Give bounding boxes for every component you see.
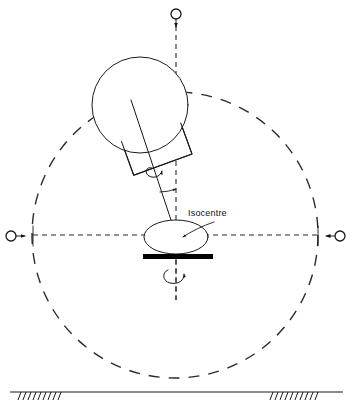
gantry-rotation-marker-circle [171, 9, 181, 19]
beam-angle-marker [160, 189, 176, 192]
floor [10, 392, 343, 400]
diagram-canvas: Isocentre [0, 0, 353, 412]
patient-and-couch [143, 220, 213, 300]
treatment-couch-bar [143, 254, 213, 259]
right-axis-marker-circle [335, 231, 345, 241]
floor-hatch-right [270, 392, 318, 400]
left-axis-marker-circle [6, 231, 16, 241]
floor-hatch-left [18, 392, 61, 400]
gantry-head [92, 57, 192, 175]
couch-rotation-arrow [164, 270, 184, 283]
gantry-head-circle [92, 57, 188, 153]
beam-angle-arc [160, 189, 176, 192]
left-axis-marker [6, 231, 25, 241]
isocentre-label: Isocentre [188, 208, 227, 218]
isocentre-diagram: Isocentre [0, 0, 353, 412]
patient-cross-section [144, 220, 208, 254]
right-axis-marker [326, 231, 345, 241]
gantry-rotation-marker [171, 9, 181, 27]
